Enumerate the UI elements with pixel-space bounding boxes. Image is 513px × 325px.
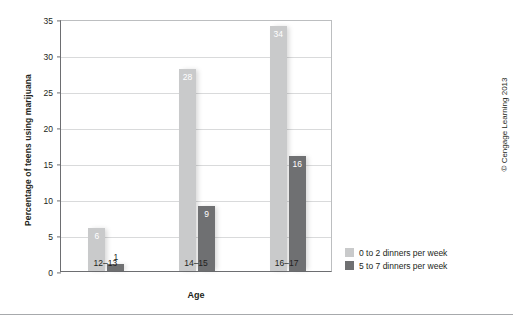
chart-figure: Percentage of teens using marijuana 0510… [0,0,513,325]
bar-value-label: 34 [270,29,287,39]
y-axis-tick-label: 5 [33,232,53,242]
plot-area: 05101520253035612893416 [60,20,332,272]
y-axis-tick-label: 30 [33,52,53,62]
gridline [61,57,331,58]
y-axis-tick-mark [57,128,61,129]
y-axis-tick-mark [57,164,61,165]
legend-swatch-dark [345,261,354,270]
y-axis-title: Percentage of teens using marijuana [23,30,33,270]
legend-swatch-light [345,248,354,257]
y-axis-tick-mark [57,272,61,273]
gridline [61,93,331,94]
x-axis-tick-label: 14–15 [156,258,236,268]
bar: 28 [179,69,196,271]
x-axis-title: Age [60,290,332,300]
y-axis-tick-mark [57,92,61,93]
y-axis-tick-mark [57,200,61,201]
bar-value-label: 16 [289,159,306,169]
bar: 34 [270,26,287,271]
x-axis-tick-label: 16–17 [247,258,327,268]
bar: 16 [289,156,306,271]
bar-value-label: 6 [88,231,105,241]
gridline [61,129,331,130]
legend: 0 to 2 dinners per week 5 to 7 dinners p… [345,246,447,272]
y-axis-tick-mark [57,236,61,237]
y-axis-tick-mark [57,56,61,57]
legend-item-1: 5 to 7 dinners per week [345,259,447,272]
y-axis-tick-label: 20 [33,124,53,134]
y-axis-tick-label: 35 [33,16,53,26]
legend-label-0: 0 to 2 dinners per week [359,248,447,258]
legend-item-0: 0 to 2 dinners per week [345,246,447,259]
legend-label-1: 5 to 7 dinners per week [359,261,447,271]
bar-value-label: 28 [179,72,196,82]
copyright-credit: © Cengage Learning 2013 [500,55,509,195]
y-axis-tick-label: 0 [33,268,53,278]
x-axis-tick-label: 12–13 [65,258,145,268]
bar-value-label: 9 [198,209,215,219]
bottom-divider [0,314,513,315]
y-axis-tick-mark [57,20,61,21]
y-axis-tick-label: 15 [33,160,53,170]
y-axis-tick-label: 25 [33,88,53,98]
y-axis-tick-label: 10 [33,196,53,206]
